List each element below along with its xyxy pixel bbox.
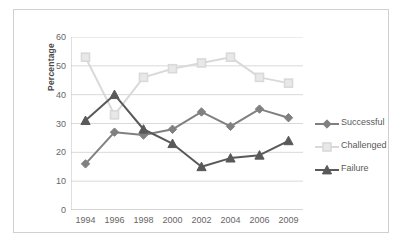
data-point-marker [198,59,206,67]
chart-container: Percentage 60 50 40 30 20 10 0 199419961… [0,0,400,252]
chart-legend: SuccessfulChallengedFailure [314,110,400,179]
chart-frame: Percentage 60 50 40 30 20 10 0 199419961… [13,9,389,233]
data-point-marker [256,73,264,81]
data-point-marker [197,108,205,116]
plot-area [71,37,303,210]
data-point-marker [323,119,331,127]
y-tick-label: 20 [44,148,66,157]
y-tick-label: 0 [44,206,66,215]
diamond-marker-icon [314,116,340,128]
legend-label: Failure [340,163,369,173]
data-point-marker [255,105,263,113]
y-tick-label: 50 [44,62,66,71]
legend-label: Challenged [340,140,387,150]
data-point-marker [284,114,292,122]
gridlines [71,37,303,210]
triangle-marker-icon [314,162,340,174]
data-point-marker [227,53,235,61]
y-tick-label: 40 [44,91,66,100]
legend-item-failure[interactable]: Failure [314,156,400,179]
data-point-marker [140,73,148,81]
y-axis-tick-labels: 60 50 40 30 20 10 0 [42,37,66,210]
data-point-marker [284,136,293,145]
legend-item-challenged[interactable]: Challenged [314,133,400,156]
y-tick-label: 30 [44,120,66,129]
legend-label: Successful [340,117,385,127]
data-point-marker [168,125,176,133]
data-point-marker [323,143,331,151]
y-tick-label: 60 [44,33,66,42]
data-point-marker [168,139,177,148]
legend-item-successful[interactable]: Successful [314,110,400,133]
chart-plot-svg [71,37,303,210]
square-marker-icon [314,139,340,151]
x-tick-label: 2009 [272,216,306,225]
data-point-marker [82,53,90,61]
x-axis-tick-labels: 19941996199820002002200420062009 [71,216,303,232]
y-tick-label: 10 [44,177,66,186]
data-series-layer [81,53,293,170]
data-point-marker [111,111,119,119]
data-point-marker [169,65,177,73]
data-point-marker [285,79,293,87]
